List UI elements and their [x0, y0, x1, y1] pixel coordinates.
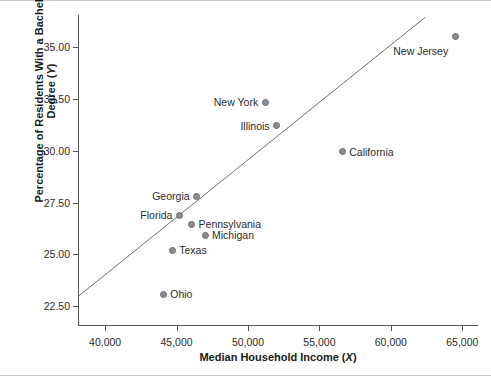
y-tick-mark [73, 254, 78, 255]
y-axis-title-variable: Y [45, 67, 57, 74]
x-axis-title-variable: X [346, 351, 353, 363]
data-point-label: Texas [179, 245, 206, 256]
data-point-label: California [349, 147, 393, 158]
x-tick-mark [391, 326, 392, 331]
data-point-marker [262, 99, 269, 106]
x-tick-label: 65,000 [446, 336, 478, 348]
scatter-plot-figure: New JerseyNew YorkIllinoisCaliforniaGeor… [0, 0, 491, 376]
data-point-marker [452, 33, 459, 40]
x-axis-title-tail: ) [353, 351, 357, 363]
y-tick-mark [73, 151, 78, 152]
y-tick-label: 25.00 [44, 248, 70, 260]
data-point-label: Pennsylvania [199, 219, 261, 230]
data-point-label: Illinois [240, 121, 269, 132]
y-axis-title: Percentage of Residents With a Bachelor'… [33, 0, 57, 221]
y-tick-label: 22.50 [44, 300, 70, 312]
data-point-marker [188, 221, 195, 228]
data-point-marker [202, 232, 209, 239]
y-tick-mark [73, 306, 78, 307]
y-tick-mark [73, 99, 78, 100]
data-point-label: New York [214, 97, 258, 108]
x-axis-title: Median Household Income (X) [78, 351, 478, 363]
x-tick-mark [319, 326, 320, 331]
data-point-marker [176, 212, 183, 219]
x-tick-mark [462, 326, 463, 331]
x-tick-label: 50,000 [232, 336, 264, 348]
data-point-marker [193, 193, 200, 200]
data-point-label: Ohio [170, 289, 192, 300]
x-axis-title-text: Median Household Income ( [199, 351, 345, 363]
y-axis-title-text: Percentage of Residents With a Bachelor'… [33, 0, 57, 203]
data-point-label: New Jersey [393, 46, 448, 57]
x-tick-mark [105, 326, 106, 331]
data-point-label: Michigan [212, 230, 254, 241]
y-tick-mark [73, 203, 78, 204]
data-point-label: Georgia [152, 191, 189, 202]
plot-area: New JerseyNew YorkIllinoisCaliforniaGeor… [78, 15, 478, 326]
x-tick-label: 55,000 [303, 336, 335, 348]
x-tick-label: 45,000 [161, 336, 193, 348]
regression-line-layer [78, 15, 478, 326]
y-axis-title-tail: ) [45, 63, 57, 67]
data-point-marker [169, 247, 176, 254]
x-tick-label: 40,000 [89, 336, 121, 348]
y-tick-mark [73, 47, 78, 48]
x-tick-mark [248, 326, 249, 331]
x-tick-label: 60,000 [375, 336, 407, 348]
data-point-marker [160, 291, 167, 298]
data-point-label: Florida [140, 210, 172, 221]
x-tick-mark [177, 326, 178, 331]
